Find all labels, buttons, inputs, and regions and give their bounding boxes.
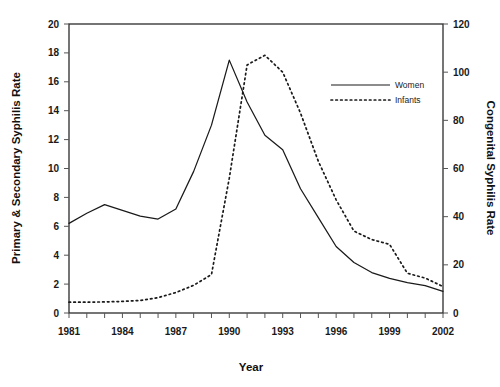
y2-tick-label: 120 (453, 19, 470, 30)
x-tick-label: 1993 (272, 326, 295, 337)
y2-tick-label: 20 (453, 259, 465, 270)
legend-label-women: Women (395, 80, 424, 90)
x-tick-label: 1984 (111, 326, 134, 337)
x-tick-label: 1996 (325, 326, 348, 337)
series-group (69, 55, 443, 302)
y-tick-label: 8 (53, 192, 59, 203)
x-tick-label: 1981 (58, 326, 81, 337)
y2-tick-label: 80 (453, 115, 465, 126)
y-tick-label: 12 (48, 134, 60, 145)
series-line-women (69, 60, 443, 291)
x-tick-label: 1990 (218, 326, 241, 337)
x-axis-title: Year (239, 361, 264, 373)
x-tick-label: 1987 (165, 326, 188, 337)
y2-tick-label: 0 (453, 308, 459, 319)
series-line-infants (69, 55, 443, 302)
x-tick-label: 1999 (378, 326, 401, 337)
y-tick-label: 18 (48, 47, 60, 58)
y-tick-label: 20 (48, 19, 60, 30)
chart-legend: Women Infants (331, 80, 424, 105)
y-tick-label: 14 (48, 105, 60, 116)
y-axis-right-title: Congenital Syphilis Rate (485, 101, 497, 236)
y2-tick-label: 100 (453, 67, 470, 78)
y-tick-label: 4 (53, 250, 59, 261)
y-axis-left-ticks (64, 24, 69, 313)
legend-label-infants: Infants (395, 95, 421, 105)
y-axis-left-tick-labels: 02468101214161820 (48, 19, 60, 319)
y2-tick-label: 40 (453, 211, 465, 222)
y-tick-label: 10 (48, 163, 60, 174)
x-axis-tick-labels: 19811984198719901993199619992002 (58, 326, 455, 337)
y-tick-label: 6 (53, 221, 59, 232)
y-axis-right-ticks (443, 24, 448, 313)
y-tick-label: 0 (53, 308, 59, 319)
plot-frame (69, 24, 443, 313)
chart-figure: 19811984198719901993199619992002 0246810… (0, 0, 500, 387)
x-axis-ticks (69, 313, 443, 318)
y2-tick-label: 60 (453, 163, 465, 174)
y-axis-left-title: Primary & Secondary Syphilis Rate (10, 72, 22, 264)
y-tick-label: 16 (48, 76, 60, 87)
syphilis-rate-line-chart: 19811984198719901993199619992002 0246810… (0, 0, 500, 387)
x-tick-label: 2002 (432, 326, 455, 337)
y-axis-right-tick-labels: 020406080100120 (453, 19, 470, 319)
y-tick-label: 2 (53, 279, 59, 290)
